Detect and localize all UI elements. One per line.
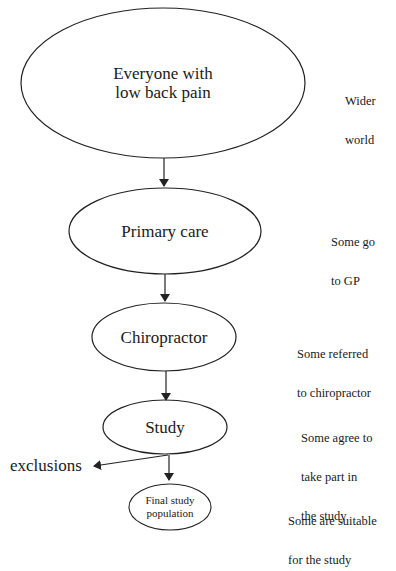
exclusions-label: exclusions bbox=[10, 457, 82, 475]
annotation-line: Some agree to bbox=[301, 432, 373, 445]
node-primary-care-label: Primary care bbox=[121, 222, 208, 241]
annotation-line: to GP bbox=[331, 275, 375, 288]
annotation-line: Some go bbox=[331, 236, 375, 249]
node-chiropractor-label: Chiropractor bbox=[121, 328, 208, 347]
node-study-label: Study bbox=[145, 418, 185, 437]
arrow-study-to-exclusions bbox=[94, 455, 168, 466]
annotation-line: Wider bbox=[345, 95, 376, 108]
annotation-line: world bbox=[345, 134, 376, 147]
node-final-line2: population bbox=[146, 507, 194, 519]
node-everyone-line2: low back pain bbox=[115, 83, 211, 102]
annotation-some-go-to-gp: Some go to GP bbox=[331, 210, 375, 301]
annotation-referred-chiropractor: Some referred to chiropractor bbox=[297, 322, 371, 413]
node-final-line1: Final study bbox=[145, 494, 195, 506]
annotation-suitable: Some are suitable for the study bbox=[288, 489, 377, 571]
annotation-line: Some are suitable bbox=[288, 515, 377, 528]
node-everyone-line1: Everyone with bbox=[113, 64, 213, 83]
annotation-wider-world: Wider world bbox=[345, 69, 376, 160]
annotation-line: Some referred bbox=[297, 348, 371, 361]
annotation-line: to chiropractor bbox=[297, 387, 371, 400]
annotation-line: for the study bbox=[288, 554, 377, 567]
annotation-line: take part in bbox=[301, 471, 373, 484]
